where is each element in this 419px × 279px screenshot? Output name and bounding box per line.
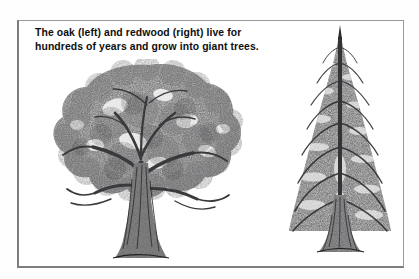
caption-line-1: The oak (left) and redwood (right) live … bbox=[35, 26, 285, 40]
redwood-tree-illustration bbox=[285, 19, 395, 261]
oak-branches bbox=[63, 89, 229, 235]
figure-page: · · · · · · · · · · · · The oak (left) a… bbox=[0, 0, 419, 279]
oak-foliage-mass bbox=[37, 59, 257, 209]
oak-trunk bbox=[113, 163, 169, 258]
caption-line-2: hundreds of years and grow into giant tr… bbox=[35, 40, 285, 54]
oak-tree-illustration bbox=[37, 59, 257, 259]
page-top-partial-text: · · · · · · · · · · · · bbox=[120, 0, 320, 7]
redwood-foliage bbox=[285, 19, 395, 234]
page-bottom-bleed bbox=[0, 276, 419, 278]
figure-frame: The oak (left) and redwood (right) live … bbox=[17, 20, 404, 268]
redwood-trunk bbox=[317, 195, 364, 252]
redwood-branches bbox=[293, 47, 387, 231]
figure-caption: The oak (left) and redwood (right) live … bbox=[35, 26, 285, 54]
redwood-leader bbox=[338, 25, 342, 215]
